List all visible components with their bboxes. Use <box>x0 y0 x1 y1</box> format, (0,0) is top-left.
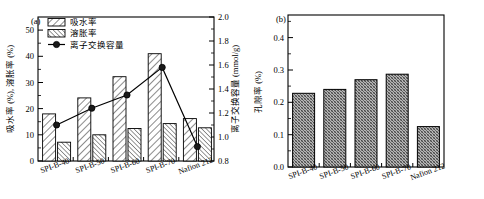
bar-water-uptake-2 <box>113 77 126 161</box>
y-tick-b-0.4: 0.4 <box>273 33 284 43</box>
bar-swelling-3 <box>163 124 176 161</box>
bar-porosity-1 <box>324 89 346 167</box>
bar-water-uptake-0 <box>43 114 56 161</box>
y2-tick-a-1.0: 1.0 <box>218 132 229 142</box>
y2-tick-a-1.4: 1.4 <box>218 84 229 94</box>
y-tick-b-0.0: 0.0 <box>273 162 284 172</box>
marker-iec-2 <box>124 92 130 98</box>
legend-label-swelling-ratio: 溶胀率 <box>70 28 97 38</box>
y-tick-a-30: 30 <box>26 78 35 88</box>
panel-b-tag: (b) <box>276 14 286 24</box>
marker-iec-3 <box>159 64 165 70</box>
panel-a-svg: (a) 0 10 20 30 40 50 <box>0 0 242 199</box>
bar-porosity-3 <box>386 74 408 167</box>
y2-tick-a-1.8: 1.8 <box>218 36 229 46</box>
y-tick-a-0: 0 <box>30 156 34 166</box>
legend-swatch-water-uptake <box>48 19 65 27</box>
legend-label-iec: 离子交换容量 <box>70 40 124 50</box>
y-axis-label-a-right: 离子交换容量 (mmol/g) <box>230 45 240 133</box>
marker-iec-4 <box>194 144 200 150</box>
y-tick-a-50: 50 <box>26 25 35 35</box>
y2-tick-a-1.6: 1.6 <box>218 60 229 70</box>
legend-swatch-swelling-ratio <box>48 30 65 38</box>
panel-b-svg: (b) 0.0 0.1 0.2 0.3 0.4 孔隙率 (%) <box>242 0 484 199</box>
legend-label-water-uptake: 吸水率 <box>70 17 97 27</box>
bar-porosity-0 <box>293 93 315 167</box>
y2-tick-a-1.2: 1.2 <box>218 108 229 118</box>
panel-b: (b) 0.0 0.1 0.2 0.3 0.4 孔隙率 (%) <box>242 0 484 199</box>
bar-porosity-2 <box>355 80 377 167</box>
y-axis-label-b: 孔隙率 (%) <box>253 71 263 113</box>
y-tick-b-0.2: 0.2 <box>273 97 284 107</box>
y2-tick-a-2.0: 2.0 <box>218 12 229 22</box>
y-tick-b-0.3: 0.3 <box>273 65 284 75</box>
y-tick-a-20: 20 <box>26 104 35 114</box>
y-tick-b-0.1: 0.1 <box>273 130 284 140</box>
marker-iec-0 <box>54 122 60 128</box>
figure-root: (a) 0 10 20 30 40 50 <box>0 0 484 199</box>
bar-swelling-2 <box>128 129 141 162</box>
y2-tick-a-0.8: 0.8 <box>218 156 229 166</box>
y-tick-a-40: 40 <box>26 51 35 61</box>
bar-porosity-4 <box>417 127 439 167</box>
legend-marker-iec <box>53 41 59 47</box>
y-axis-label-a-left: 吸水率 (%), 溶胀率 (%) <box>5 45 15 133</box>
y-tick-a-10: 10 <box>26 130 35 140</box>
panel-a: (a) 0 10 20 30 40 50 <box>0 0 242 199</box>
marker-iec-1 <box>89 105 95 111</box>
